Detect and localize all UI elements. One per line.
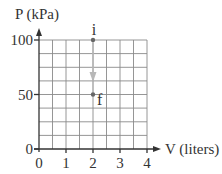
x-tick-2: 2 [89, 155, 97, 171]
x-axis-title: V (liters) [165, 141, 219, 158]
y-tick-0: 0 [26, 141, 34, 157]
y-axis-title: P (kPa) [15, 6, 59, 23]
point-i [91, 38, 95, 42]
x-tick-1: 1 [62, 155, 70, 171]
point-f-label: f [97, 91, 103, 108]
x-tick-3: 3 [116, 155, 124, 171]
x-axis-arrow-icon [153, 146, 161, 152]
y-tick-100: 100 [11, 32, 34, 48]
y-axis-arrow-icon [36, 28, 42, 36]
x-tick-4: 4 [143, 155, 151, 171]
point-i-label: i [92, 21, 97, 38]
point-f [91, 92, 95, 96]
pv-chart: i f 100 50 0 0 1 2 3 4 P (kPa) V (liters… [0, 0, 222, 174]
y-tick-50: 50 [18, 87, 33, 103]
x-tick-0: 0 [35, 155, 43, 171]
